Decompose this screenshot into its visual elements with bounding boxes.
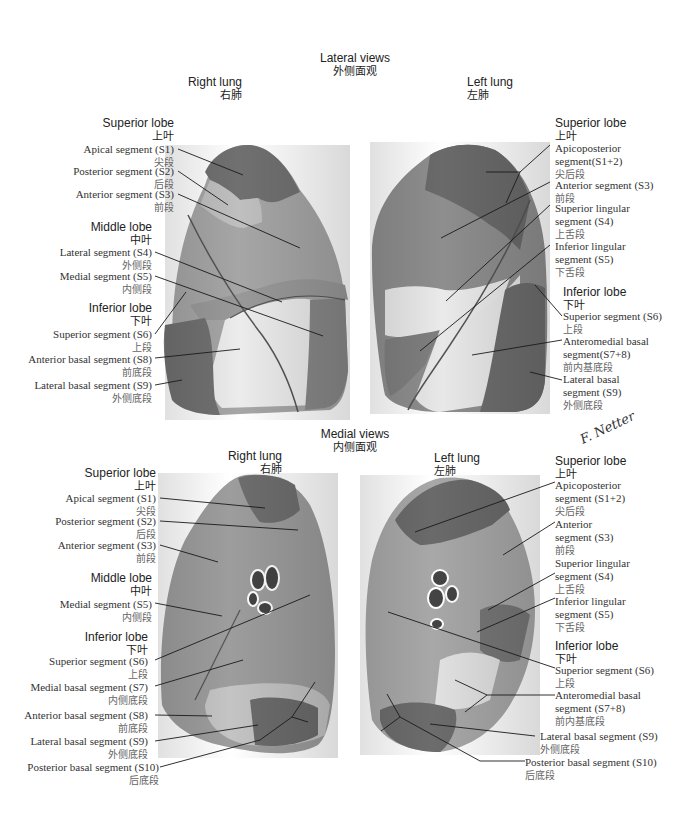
lateral-left-lung-title-en: Left lung xyxy=(467,76,537,89)
label-en-line1: Superior lingular xyxy=(555,557,630,570)
med-r-posterior-segment: Posterior segment (S2) 后段 xyxy=(55,515,156,541)
label-en: Medial segment (S5) xyxy=(60,598,152,611)
lat-r-middle-lobe: Middle lobe 中叶 xyxy=(91,221,152,247)
label-en: Anterior basal segment (S8) xyxy=(24,709,148,722)
label-en: Superior segment (S6) xyxy=(53,328,152,341)
label-en-line2: segment (S5) xyxy=(555,608,626,621)
label-en-line2: segment(S7+8) xyxy=(563,348,649,361)
lateral-left-lung xyxy=(370,142,550,414)
label-en: Anterior basal segment (S8) xyxy=(28,353,152,366)
label-en: Lateral basal segment (S9) xyxy=(540,730,658,743)
lung-segments-diagram: Lateral views 外侧面观 Right lung 右肺 Left lu… xyxy=(0,0,686,821)
label-en-line1: Superior lingular xyxy=(555,202,630,215)
label-en-line2: segment (S5) xyxy=(555,253,626,266)
label-zh: 后底段 xyxy=(27,774,159,787)
label-en: Lateral segment (S4) xyxy=(60,246,152,259)
label-zh: 外侧底段 xyxy=(563,399,621,412)
med-l-anteromedial-basal-segment: Anteromedial basal segment (S7+8) 前内基底段 xyxy=(555,689,641,728)
medial-left-lung-title-en: Left lung xyxy=(434,452,504,465)
lat-r-inferior-lobe: Inferior lobe 下叶 xyxy=(89,302,152,328)
label-zh: 下叶 xyxy=(89,315,152,328)
med-l-superior-segment: Superior segment (S6) 上段 xyxy=(555,664,654,690)
label-zh: 前段 xyxy=(58,552,156,565)
label-en: Anterior segment (S3) xyxy=(58,539,156,552)
medial-right-lung-title-en: Right lung xyxy=(220,450,282,463)
medial-views-title-zh: 内侧面观 xyxy=(300,441,410,454)
label-en: Posterior basal segment (S10) xyxy=(27,761,159,774)
lat-l-superior-lobe: Superior lobe 上叶 xyxy=(555,117,626,143)
med-l-inferior-lobe: Inferior lobe 下叶 xyxy=(555,640,618,666)
label-zh: 后底段 xyxy=(525,769,657,782)
label-zh: 前段 xyxy=(76,201,174,214)
med-l-anterior-segment: Anterior segment (S3) 前段 xyxy=(555,518,613,557)
med-l-superior-lingular-segment: Superior lingular segment (S4) 上舌段 xyxy=(555,557,630,596)
lat-l-apicoposterior-segment: Apicoposterior segment(S1+2) 尖后段 xyxy=(555,142,622,181)
med-r-superior-lobe: Superior lobe 上叶 xyxy=(85,467,156,493)
label-zh: 内侧底段 xyxy=(30,694,148,707)
med-r-anterior-basal-segment: Anterior basal segment (S8) 前底段 xyxy=(24,709,148,735)
medial-left-lung xyxy=(360,475,540,755)
medial-right-lung-title: Right lung 右肺 xyxy=(220,450,282,476)
label-zh: 中叶 xyxy=(91,585,152,598)
label-zh: 上叶 xyxy=(103,130,174,143)
label-zh: 前段 xyxy=(555,544,613,557)
lat-r-anterior-segment: Anterior segment (S3) 前段 xyxy=(76,188,174,214)
label-en-line2: segment (S4) xyxy=(555,215,630,228)
label-zh: 内侧段 xyxy=(60,611,152,624)
lateral-left-lung-title-zh: 左肺 xyxy=(467,89,537,102)
medial-views-title-en: Medial views xyxy=(300,428,410,441)
label-en-line2: segment (S4) xyxy=(555,570,630,583)
label-zh: 上段 xyxy=(49,668,148,681)
med-l-inferior-lingular-segment: Inferior lingular segment (S5) 下舌段 xyxy=(555,595,626,634)
medial-left-lung-title-zh: 左肺 xyxy=(434,465,504,478)
label-zh: 外侧底段 xyxy=(30,748,148,761)
lateral-views-title-zh: 外侧面观 xyxy=(300,65,410,78)
lat-r-lateral-basal-segment: Lateral basal segment (S9) 外侧底段 xyxy=(34,379,152,405)
lateral-views-title: Lateral views 外侧面观 xyxy=(300,52,410,78)
label-zh: 前底段 xyxy=(28,366,152,379)
label-en: Superior lobe xyxy=(555,455,626,468)
lat-l-inferior-lobe: Inferior lobe 下叶 xyxy=(563,286,626,312)
lateral-right-lung-title-zh: 右肺 xyxy=(180,89,242,102)
label-en-line2: segment (S7+8) xyxy=(555,702,641,715)
lat-r-medial-segment: Medial segment (S5) 内侧段 xyxy=(60,270,152,296)
label-en-line1: Anteromedial basal xyxy=(555,689,641,702)
label-en: Superior segment (S6) xyxy=(563,310,662,323)
med-r-superior-segment: Superior segment (S6) 上段 xyxy=(49,655,148,681)
label-zh: 外侧底段 xyxy=(34,392,152,405)
med-r-middle-lobe: Middle lobe 中叶 xyxy=(91,572,152,598)
label-en-line2: segment (S9) xyxy=(563,386,621,399)
label-en-line1: Apicoposterior xyxy=(555,142,622,155)
medial-right-lung-title-zh: 右肺 xyxy=(220,463,282,476)
label-en: Lateral basal segment (S9) xyxy=(34,379,152,392)
label-en: Superior segment (S6) xyxy=(49,655,148,668)
label-en-line1: Apicoposterior xyxy=(555,479,625,492)
label-en: Middle lobe xyxy=(91,572,152,585)
med-l-superior-lobe: Superior lobe 上叶 xyxy=(555,455,626,481)
lat-r-superior-segment: Superior segment (S6) 上段 xyxy=(53,328,152,354)
med-r-lateral-basal-segment: Lateral basal segment (S9) 外侧底段 xyxy=(30,735,148,761)
label-en: Posterior segment (S2) xyxy=(73,165,174,178)
lateral-right-lung xyxy=(164,145,350,420)
lateral-right-lung-title-en: Right lung xyxy=(180,76,242,89)
label-zh: 下舌段 xyxy=(555,621,626,634)
label-en: Inferior lobe xyxy=(555,640,618,653)
label-en: Apical segment (S1) xyxy=(66,492,156,505)
label-en-line1: Lateral basal xyxy=(563,373,621,386)
label-en: Superior lobe xyxy=(103,117,174,130)
label-zh: 前底段 xyxy=(24,722,148,735)
lat-r-superior-lobe: Superior lobe 上叶 xyxy=(103,117,174,143)
label-en-line1: Anteromedial basal xyxy=(563,335,649,348)
medial-views-title: Medial views 内侧面观 xyxy=(300,428,410,454)
label-en: Posterior segment (S2) xyxy=(55,515,156,528)
label-en: Apical segment (S1) xyxy=(84,143,174,156)
lat-l-lateral-basal-segment: Lateral basal segment (S9) 外侧底段 xyxy=(563,373,621,412)
label-en: Superior segment (S6) xyxy=(555,664,654,677)
label-zh: 外侧底段 xyxy=(540,743,658,756)
label-en: Medial segment (S5) xyxy=(60,270,152,283)
label-en: Superior lobe xyxy=(85,467,156,480)
label-en-line2: segment(S1+2) xyxy=(555,155,622,168)
label-zh: 前内基底段 xyxy=(555,715,641,728)
label-zh: 尖后段 xyxy=(555,505,625,518)
med-r-anterior-segment: Anterior segment (S3) 前段 xyxy=(58,539,156,565)
